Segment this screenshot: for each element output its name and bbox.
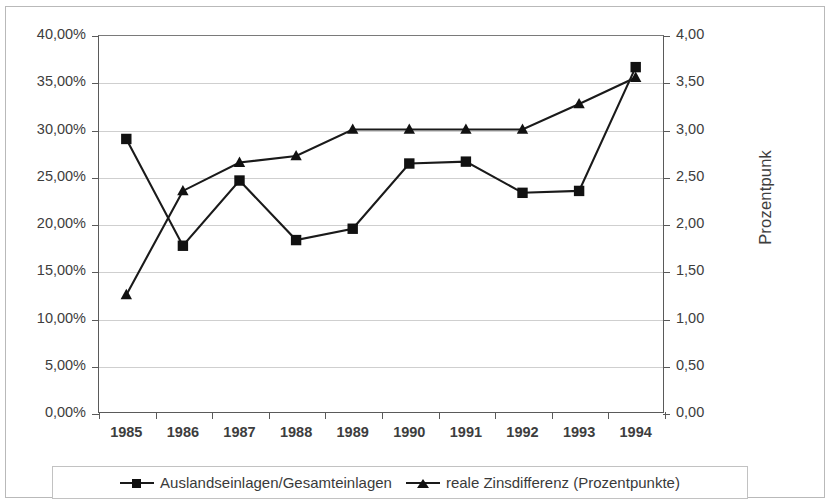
right-axis-tick-label: 4,00 — [676, 26, 746, 42]
left-axis-tick-label: 10,00% — [0, 310, 86, 326]
right-axis-tick-label: 3,50 — [676, 73, 746, 89]
data-point-square — [121, 134, 131, 144]
x-axis-tick — [608, 412, 609, 419]
left-axis-tick-label: 35,00% — [0, 73, 86, 89]
x-axis-tick-label: 1994 — [601, 424, 671, 440]
square-marker-icon — [120, 477, 154, 489]
right-axis-tick — [663, 178, 670, 179]
left-axis-tick-label: 30,00% — [0, 121, 86, 137]
legend-item-zinsdifferenz: reale Zinsdifferenz (Prozentpunkte) — [406, 474, 680, 491]
right-axis-tick-label: 2,00 — [676, 215, 746, 231]
x-axis-tick — [325, 412, 326, 419]
triangle-marker-icon — [406, 477, 440, 489]
x-axis-tick — [495, 412, 496, 419]
x-axis-tick — [212, 412, 213, 419]
right-axis-tick — [663, 83, 670, 84]
left-axis-tick-label: 5,00% — [0, 357, 86, 373]
right-axis-tick-label: 3,00 — [676, 121, 746, 137]
data-point-square — [574, 186, 584, 196]
data-point-square — [178, 241, 188, 251]
right-axis-tick — [663, 320, 670, 321]
legend-item-auslandseinlagen: Auslandseinlagen/Gesamteinlagen — [120, 474, 392, 491]
series-line-2 — [126, 78, 635, 295]
right-axis-tick-label: 0,50 — [676, 357, 746, 373]
data-point-square — [291, 235, 301, 245]
left-axis-tick-label: 20,00% — [0, 215, 86, 231]
x-axis-tick — [269, 412, 270, 419]
data-point-square — [348, 224, 358, 234]
x-axis-tick — [382, 412, 383, 419]
right-axis-tick — [663, 36, 670, 37]
right-axis-tick-label: 1,50 — [676, 262, 746, 278]
x-axis-tick — [665, 412, 666, 419]
left-axis-tick-label: 40,00% — [0, 26, 86, 42]
right-axis-tick — [663, 131, 670, 132]
right-axis-title: Prozentpunk — [756, 150, 775, 245]
line-chart: 0,00%5,00%10,00%15,00%20,00%25,00%30,00%… — [0, 0, 832, 504]
left-axis-tick-label: 25,00% — [0, 168, 86, 184]
series-layer — [98, 35, 664, 413]
right-axis-tick-label: 0,00 — [676, 404, 746, 420]
left-axis-tick-label: 0,00% — [0, 404, 86, 420]
x-axis-tick — [156, 412, 157, 419]
data-point-square — [234, 175, 244, 185]
right-axis-tick — [663, 225, 670, 226]
data-point-square — [404, 158, 414, 168]
left-axis-tick — [92, 414, 99, 415]
right-axis-tick — [663, 272, 670, 273]
x-axis-tick — [439, 412, 440, 419]
right-axis-tick-label: 2,50 — [676, 168, 746, 184]
data-point-square — [517, 188, 527, 198]
left-axis-tick-label: 15,00% — [0, 262, 86, 278]
data-point-square — [631, 62, 641, 72]
legend-label-auslandseinlagen: Auslandseinlagen/Gesamteinlagen — [160, 474, 392, 491]
data-point-triangle — [121, 289, 132, 299]
legend-label-zinsdifferenz: reale Zinsdifferenz (Prozentpunkte) — [446, 474, 680, 491]
right-axis-tick — [663, 367, 670, 368]
right-axis-tick-label: 1,00 — [676, 310, 746, 326]
data-point-square — [461, 156, 471, 166]
chart-page: 0,00%5,00%10,00%15,00%20,00%25,00%30,00%… — [0, 0, 832, 504]
chart-legend: Auslandseinlagen/Gesamteinlagen reale Zi… — [52, 466, 748, 499]
series-line-1 — [126, 67, 635, 246]
x-axis-tick — [552, 412, 553, 419]
x-axis-tick — [99, 412, 100, 419]
